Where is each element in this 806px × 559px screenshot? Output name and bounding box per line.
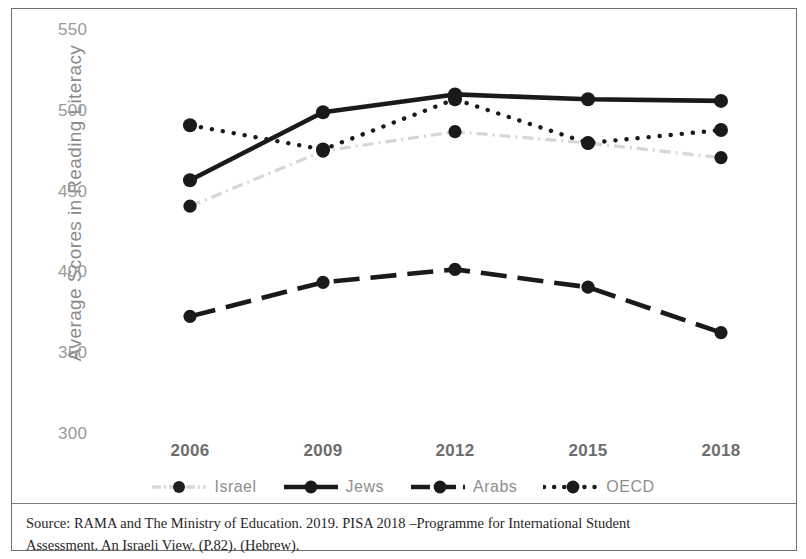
chart-legend: Israel Jews Arabs OECD xyxy=(0,474,806,500)
data-point-oecd-2018 xyxy=(714,123,728,137)
series-line-israel xyxy=(190,132,721,207)
arabs-legend-key xyxy=(410,478,466,496)
israel-legend-key xyxy=(151,478,207,496)
jews-legend-key xyxy=(283,478,339,496)
source-line-1: Source: RAMA and The Ministry of Educati… xyxy=(26,512,774,534)
data-point-israel-2018 xyxy=(714,151,727,164)
data-point-oecd-2012 xyxy=(448,92,462,106)
data-point-jews-2015 xyxy=(581,92,595,106)
legend-label-israel: Israel xyxy=(214,478,256,496)
figure-caption-divider xyxy=(12,503,796,504)
line-chart: Average Scores in Reading Literacy 550 5… xyxy=(0,0,806,500)
legend-item-jews[interactable]: Jews xyxy=(283,478,384,496)
data-point-arabs-2006 xyxy=(183,310,196,323)
data-point-arabs-2015 xyxy=(581,281,594,294)
data-point-arabs-2018 xyxy=(714,326,727,339)
legend-item-israel[interactable]: Israel xyxy=(151,478,256,496)
data-point-arabs-2012 xyxy=(448,263,461,276)
data-point-jews-2009 xyxy=(316,105,330,119)
source-line-2: Assessment. An Israeli View. (P.82). (He… xyxy=(26,534,774,556)
data-point-oecd-2006 xyxy=(183,118,197,132)
legend-item-oecd[interactable]: OECD xyxy=(543,478,654,496)
data-point-arabs-2009 xyxy=(316,276,329,289)
legend-label-oecd: OECD xyxy=(606,478,654,496)
legend-item-arabs[interactable]: Arabs xyxy=(410,478,517,496)
data-point-oecd-2009 xyxy=(316,143,330,157)
figure-container: Average Scores in Reading Literacy 550 5… xyxy=(0,0,806,559)
source-caption: Source: RAMA and The Ministry of Educati… xyxy=(26,512,774,557)
data-point-oecd-2015 xyxy=(581,136,595,150)
data-point-israel-2006 xyxy=(183,200,196,213)
data-point-israel-2012 xyxy=(448,125,461,138)
data-point-jews-2006 xyxy=(183,173,197,187)
series-line-arabs xyxy=(190,269,721,332)
legend-label-jews: Jews xyxy=(346,478,384,496)
data-point-jews-2018 xyxy=(714,94,728,108)
plot-canvas xyxy=(0,0,806,500)
oecd-legend-key xyxy=(543,478,599,496)
legend-label-arabs: Arabs xyxy=(473,478,517,496)
